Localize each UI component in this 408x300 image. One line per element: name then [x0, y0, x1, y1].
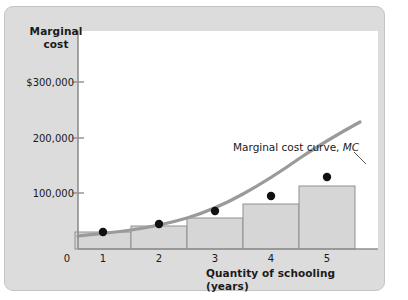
bar-3 — [187, 218, 243, 249]
marginal-cost-figure: Marginal cost $300,000 200,000 100,000 0… — [0, 0, 408, 300]
curve-label-leader — [354, 152, 366, 164]
y-axis-title: Marginal cost — [26, 25, 86, 50]
bar-4 — [243, 204, 299, 249]
data-point-4 — [267, 192, 275, 200]
x-tick-label-5: 5 — [319, 253, 335, 264]
bar-series — [75, 186, 355, 249]
x-tick-label-1: 1 — [95, 253, 111, 264]
y-axis-title-line1: Marginal — [26, 25, 86, 38]
data-point-1 — [99, 228, 107, 236]
x-tick-label-0: 0 — [59, 253, 75, 264]
data-point-3 — [211, 207, 219, 215]
data-point-5 — [323, 173, 331, 181]
x-tick-label-3: 3 — [207, 253, 223, 264]
bar-5 — [299, 186, 355, 249]
curve-annotation-emphasis: MC — [339, 141, 359, 153]
x-tick-label-4: 4 — [263, 253, 279, 264]
x-axis-title: Quantity of schooling (years) — [206, 267, 376, 292]
curve-annotation-label: Marginal cost curve, MC — [233, 141, 359, 153]
data-point-2 — [155, 220, 163, 228]
y-tick-label-300000: $300,000 — [12, 77, 74, 88]
curve-annotation-prefix: Marginal cost curve, — [233, 141, 339, 153]
y-tick-label-200000: 200,000 — [12, 133, 74, 144]
y-tick-label-100000: 100,000 — [12, 188, 74, 199]
y-axis-title-line2: cost — [26, 38, 86, 51]
x-tick-label-2: 2 — [151, 253, 167, 264]
